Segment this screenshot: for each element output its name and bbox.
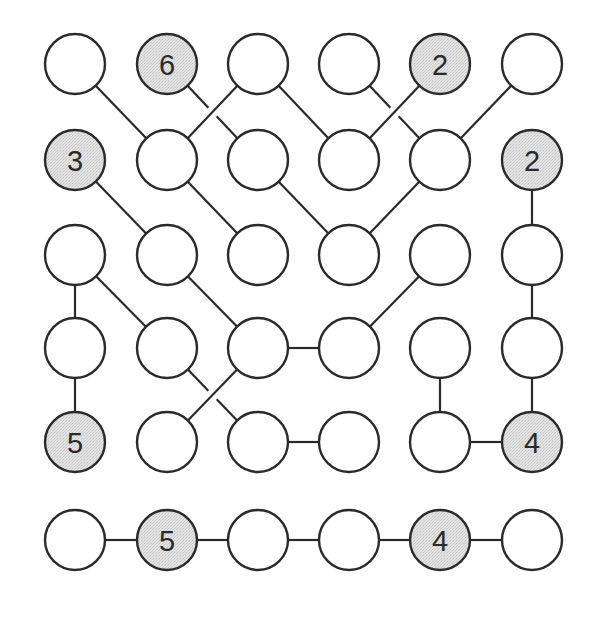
connection-line (217, 116, 238, 138)
empty-circle[interactable] (228, 510, 288, 570)
connection-line (279, 86, 329, 138)
empty-circle[interactable] (502, 225, 562, 285)
empty-circle[interactable] (228, 225, 288, 285)
connection-line (279, 182, 328, 234)
empty-node[interactable] (319, 130, 379, 190)
empty-node[interactable] (137, 318, 197, 378)
connection-line (461, 86, 511, 139)
empty-node[interactable] (137, 412, 197, 472)
empty-node[interactable] (137, 225, 197, 285)
empty-node[interactable] (228, 225, 288, 285)
empty-node[interactable] (45, 225, 105, 285)
empty-circle[interactable] (137, 225, 197, 285)
empty-circle[interactable] (228, 34, 288, 94)
empty-circle[interactable] (319, 412, 379, 472)
empty-node[interactable] (228, 318, 288, 378)
empty-node[interactable] (410, 225, 470, 285)
empty-circle[interactable] (45, 34, 105, 94)
empty-circle[interactable] (45, 318, 105, 378)
clue-value: 3 (67, 145, 83, 177)
empty-circle[interactable] (228, 318, 288, 378)
empty-circle[interactable] (319, 318, 379, 378)
empty-circle[interactable] (410, 318, 470, 378)
clue-node[interactable]: 6 (137, 34, 197, 94)
clue-node[interactable]: 2 (502, 130, 562, 190)
connection-line (96, 276, 146, 326)
empty-circle[interactable] (137, 412, 197, 472)
connection-line (96, 86, 146, 139)
clue-node[interactable]: 3 (45, 130, 105, 190)
empty-circle[interactable] (410, 412, 470, 472)
empty-circle[interactable] (45, 510, 105, 570)
clue-value: 4 (432, 525, 448, 557)
empty-circle[interactable] (502, 318, 562, 378)
empty-circle[interactable] (319, 225, 379, 285)
clue-value: 5 (67, 427, 83, 459)
empty-node[interactable] (45, 34, 105, 94)
empty-node[interactable] (228, 510, 288, 570)
connection-line (370, 182, 419, 234)
empty-circle[interactable] (410, 225, 470, 285)
empty-node[interactable] (137, 130, 197, 190)
empty-node[interactable] (410, 318, 470, 378)
empty-circle[interactable] (319, 510, 379, 570)
clue-value: 2 (524, 145, 540, 177)
clue-value: 5 (159, 525, 175, 557)
empty-node[interactable] (410, 130, 470, 190)
empty-node[interactable] (502, 318, 562, 378)
connection-line (188, 182, 237, 234)
empty-circle[interactable] (137, 318, 197, 378)
empty-node[interactable] (319, 318, 379, 378)
empty-node[interactable] (228, 130, 288, 190)
empty-node[interactable] (319, 225, 379, 285)
connection-line (217, 399, 237, 420)
connection-line (96, 182, 146, 234)
clue-node[interactable]: 5 (137, 510, 197, 570)
clue-value: 2 (432, 49, 448, 81)
empty-circle[interactable] (502, 510, 562, 570)
empty-circle[interactable] (319, 130, 379, 190)
connection-line (188, 276, 237, 326)
clue-node[interactable]: 4 (410, 510, 470, 570)
empty-node[interactable] (228, 34, 288, 94)
empty-circle[interactable] (319, 34, 379, 94)
clue-node[interactable]: 4 (502, 412, 562, 472)
connection-line (399, 116, 420, 138)
empty-circle[interactable] (410, 130, 470, 190)
clue-value: 6 (159, 49, 175, 81)
empty-node[interactable] (502, 225, 562, 285)
connection-line (188, 86, 209, 108)
empty-circle[interactable] (137, 130, 197, 190)
empty-node[interactable] (45, 318, 105, 378)
puzzle-board: 62325454 (0, 0, 609, 619)
empty-node[interactable] (502, 510, 562, 570)
connection-line (370, 276, 419, 326)
empty-node[interactable] (502, 34, 562, 94)
empty-node[interactable] (319, 412, 379, 472)
connection-line (370, 86, 391, 108)
clue-value: 4 (524, 427, 540, 459)
empty-circle[interactable] (502, 34, 562, 94)
clue-node[interactable]: 5 (45, 412, 105, 472)
empty-node[interactable] (228, 412, 288, 472)
empty-circle[interactable] (45, 225, 105, 285)
empty-node[interactable] (45, 510, 105, 570)
empty-circle[interactable] (228, 412, 288, 472)
empty-node[interactable] (319, 34, 379, 94)
empty-node[interactable] (319, 510, 379, 570)
empty-node[interactable] (410, 412, 470, 472)
empty-circle[interactable] (228, 130, 288, 190)
connection-line (188, 370, 208, 391)
clue-node[interactable]: 2 (410, 34, 470, 94)
